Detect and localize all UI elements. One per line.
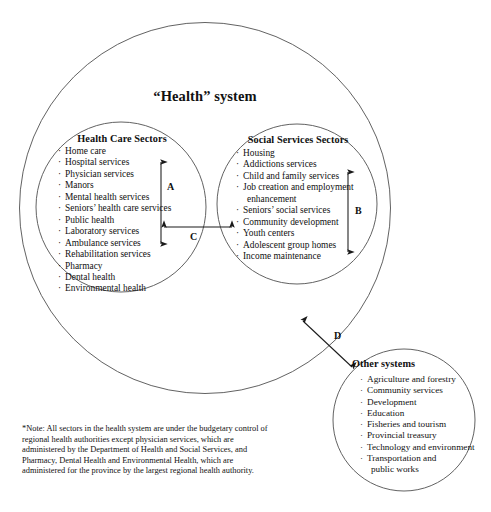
list-item: ·Job creation and employment xyxy=(236,182,354,193)
list-item: ·Hospital services xyxy=(58,157,171,168)
list-item: ·Mental health services xyxy=(58,192,171,203)
list-item: ·Adolescent group homes xyxy=(236,240,354,251)
bullet-dot-icon: · xyxy=(360,374,363,385)
list-item: ·Dental health xyxy=(58,272,171,283)
list-item-label: Housing xyxy=(243,148,275,158)
list-item-label: Ambulance services xyxy=(65,238,141,248)
list-item-wrapped-line: public works xyxy=(367,464,475,475)
bullet-dot-icon: · xyxy=(58,272,61,283)
list-item-label: Physician services xyxy=(65,169,134,179)
bullet-dot-icon: · xyxy=(58,215,61,226)
bullet-dot-icon: · xyxy=(236,217,239,228)
list-item: ·Environmental health xyxy=(58,283,171,294)
list-item: ·Development xyxy=(360,397,475,408)
bullet-dot-icon: · xyxy=(236,171,239,182)
list-item: ·Youth centers xyxy=(236,228,354,239)
arrow-d xyxy=(303,321,352,367)
list-item: ·Housing xyxy=(236,148,354,159)
bullet-dot-icon: · xyxy=(58,261,61,272)
list-item-label: Seniors’ social services xyxy=(243,205,330,215)
bullet-dot-icon: · xyxy=(58,226,61,237)
social-services-sectors-list: ·Housing·Addictions services·Child and f… xyxy=(236,148,354,263)
list-item: ·Education xyxy=(360,408,475,419)
list-item-label: Provincial treasury xyxy=(367,430,437,440)
list-item-label: Community services xyxy=(367,385,443,395)
list-item: ·Home care xyxy=(58,146,171,157)
list-item: ·Manors xyxy=(58,180,171,191)
system-title: “Health” system xyxy=(0,88,410,105)
list-item-label: Education xyxy=(367,408,404,418)
list-item: ·Income maintenance xyxy=(236,251,354,262)
bullet-dot-icon: · xyxy=(236,148,239,159)
bullet-dot-icon: · xyxy=(360,442,363,453)
list-item-label: Agriculture and forestry xyxy=(367,374,456,384)
bullet-dot-icon: · xyxy=(360,419,363,430)
list-item: ·Fisheries and tourism xyxy=(360,419,475,430)
bullet-dot-icon: · xyxy=(58,238,61,249)
bullet-dot-icon: · xyxy=(58,249,61,260)
bullet-dot-icon: · xyxy=(236,205,239,216)
list-item: ·Child and family services xyxy=(236,171,354,182)
other-systems-heading: Other systems xyxy=(352,358,470,369)
list-item: ·Ambulance services xyxy=(58,238,171,249)
list-item: ·Technology and environment xyxy=(360,442,475,453)
bullet-dot-icon: · xyxy=(58,157,61,168)
list-item-label: Income maintenance xyxy=(243,251,321,261)
list-item-label: Adolescent group homes xyxy=(243,240,336,250)
list-item-label: Pharmacy xyxy=(65,261,103,271)
list-item: public works xyxy=(360,464,475,475)
list-item: ·Seniors’ health care services xyxy=(58,203,171,214)
list-item: ·Agriculture and forestry xyxy=(360,374,475,385)
bullet-dot-icon: · xyxy=(58,203,61,214)
list-item: ·Physician services xyxy=(58,169,171,180)
list-item-label: Transportation and xyxy=(367,453,436,463)
list-item: ·Community development xyxy=(236,217,354,228)
list-item-label: Public health xyxy=(65,215,114,225)
bullet-dot-icon: · xyxy=(236,182,239,193)
list-item-label: Laboratory services xyxy=(65,226,139,236)
list-item: ·Addictions services xyxy=(236,159,354,170)
bullet-dot-icon: · xyxy=(236,251,239,262)
list-item-label: Fisheries and tourism xyxy=(367,419,446,429)
bullet-dot-icon: · xyxy=(360,453,363,464)
list-item: ·Rehabilitation services xyxy=(58,249,171,260)
list-item: enhancement xyxy=(236,194,354,205)
list-item-label: Mental health services xyxy=(65,192,149,202)
list-item-wrapped-line: enhancement xyxy=(243,194,354,205)
list-item-label: Dental health xyxy=(65,272,115,282)
bullet-dot-icon: · xyxy=(360,430,363,441)
list-item-label: Rehabilitation services xyxy=(65,249,151,259)
bullet-dot-icon: · xyxy=(58,192,61,203)
arrow-b-label: B xyxy=(355,205,362,216)
arrow-a-label: A xyxy=(167,181,174,192)
bullet-dot-icon: · xyxy=(58,180,61,191)
health-care-sectors-heading: Health Care Sectors xyxy=(36,133,208,144)
list-item-label: Youth centers xyxy=(243,228,294,238)
list-item-label: Hospital services xyxy=(65,157,129,167)
list-item-label: Job creation and employment xyxy=(243,182,354,192)
list-item-label: Home care xyxy=(65,146,106,156)
bullet-dot-icon: · xyxy=(236,240,239,251)
other-systems-list: ·Agriculture and forestry·Community serv… xyxy=(360,374,475,476)
bullet-dot-icon: · xyxy=(58,146,61,157)
list-item: ·Public health xyxy=(58,215,171,226)
bullet-dot-icon: · xyxy=(236,228,239,239)
list-item-label: Seniors’ health care services xyxy=(65,203,171,213)
list-item-label: Development xyxy=(367,397,417,407)
list-item: ·Laboratory services xyxy=(58,226,171,237)
list-item-label: Child and family services xyxy=(243,171,339,181)
arrow-c-label: C xyxy=(190,231,197,242)
list-item-label: Addictions services xyxy=(243,159,317,169)
list-item: ·Transportation and xyxy=(360,453,475,464)
arrow-d-label: D xyxy=(334,330,341,341)
diagram-canvas: “Health” system Health Care Sectors ·Hom… xyxy=(0,0,491,512)
bullet-dot-icon: · xyxy=(58,283,61,294)
list-item-label: Manors xyxy=(65,180,94,190)
list-item: ·Seniors’ social services xyxy=(236,205,354,216)
bullet-dot-icon: · xyxy=(236,159,239,170)
list-item-label: Community development xyxy=(243,217,339,227)
bullet-dot-icon: · xyxy=(360,385,363,396)
footnote-text: *Note: All sectors in the health system … xyxy=(22,424,272,477)
list-item-label: Technology and environment xyxy=(367,442,475,452)
health-care-sectors-list: ·Home care·Hospital services·Physician s… xyxy=(58,146,171,295)
